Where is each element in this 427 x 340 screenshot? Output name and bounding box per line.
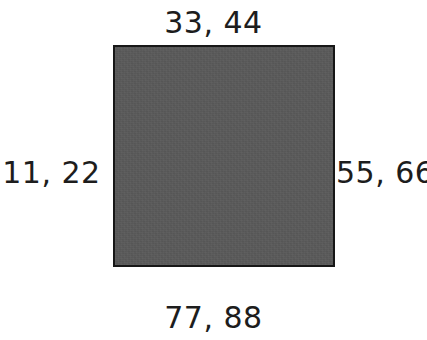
gray-square-shape — [113, 45, 335, 267]
top-edge-label: 33, 44 — [0, 8, 427, 38]
left-edge-label: 11, 22 — [0, 158, 103, 188]
diagram-canvas: 33, 44 11, 22 55, 66 77, 88 — [0, 0, 427, 340]
bottom-edge-label: 77, 88 — [0, 303, 427, 333]
right-edge-label: 55, 66 — [336, 158, 427, 188]
square-texture-overlay — [115, 47, 333, 265]
